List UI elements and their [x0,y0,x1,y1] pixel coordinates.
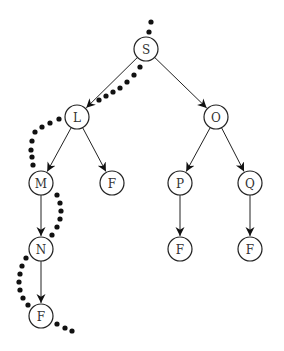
node-label: S [142,43,150,57]
node-label: F [37,310,45,324]
path-dot [110,89,115,94]
path-dot [54,321,59,326]
edge-L-M [47,128,71,172]
path-dot [58,208,63,213]
path-dot [32,129,37,134]
path-dot [56,116,61,121]
path-dot [57,216,62,221]
node-P: P [168,171,192,195]
path-dot [54,192,59,197]
path-dot [25,302,30,307]
path-dot [30,162,35,167]
edges [41,57,250,303]
node-label: Q [245,177,255,191]
path-dot [49,232,54,237]
node-S: S [134,37,158,61]
node-label: F [176,243,184,257]
node-O: O [204,105,228,129]
path-dot [28,147,33,152]
tree-diagram: SLOMFPQNFFF [0,0,284,351]
edge-O-Q [221,128,244,172]
path-dot [124,79,129,84]
path-dot [57,200,62,205]
path-dot [19,263,24,268]
node-Q: Q [238,171,262,195]
node-label: L [73,111,81,125]
path-dot [20,295,25,300]
path-dot [146,29,151,34]
node-N: N [29,237,53,261]
path-dot [148,19,153,24]
edge-O-P [186,128,210,172]
node-M: M [29,171,53,195]
edge-S-O [155,57,207,108]
path-dot [39,124,44,129]
node-label: P [176,177,184,191]
path-dot [137,64,142,69]
path-dot [54,224,59,229]
path-dot [23,255,28,260]
path-dot [103,93,108,98]
nodes: SLOMFPQNFFF [29,37,262,328]
node-label: F [108,177,116,191]
node-label: N [36,243,47,257]
path-dot [117,85,122,90]
node-F2: F [168,237,192,261]
edge-S-L [86,57,137,107]
path-dot [29,138,34,143]
node-label: M [35,177,47,191]
path-dot [17,287,22,292]
node-label: F [246,243,254,257]
path-dot [62,325,67,330]
node-F1: F [100,171,124,195]
path-dot [47,120,52,125]
path-dot [17,271,22,276]
path-dot [29,154,34,159]
path-dot [16,279,21,284]
path-dot [69,328,74,333]
node-F4: F [29,304,53,328]
node-label: O [211,111,221,125]
path-dot [131,72,136,77]
node-F3: F [238,237,262,261]
edge-L-F1 [83,128,106,172]
node-L: L [65,105,89,129]
path-dot [96,97,101,102]
